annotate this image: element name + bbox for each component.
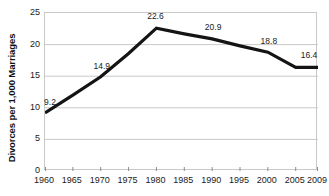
x-tick-label: 1970	[90, 175, 110, 186]
x-tick-label: 2000	[257, 175, 277, 186]
x-tick-label: 1965	[62, 175, 82, 186]
data-point-label: 20.9	[205, 22, 222, 32]
x-tick-label: 1975	[118, 175, 138, 186]
data-point-label: 16.4	[301, 50, 318, 60]
x-tick-label: 1995	[229, 175, 249, 186]
y-tick-label: 20	[10, 39, 40, 49]
y-tick-label: 0	[10, 165, 40, 175]
x-tick-label: 2005	[285, 175, 305, 186]
y-tick-label: 15	[10, 70, 40, 80]
y-tick-label: 25	[10, 7, 40, 17]
x-tick-label: 2009	[307, 175, 327, 186]
data-point-label: 9.2	[44, 97, 56, 107]
x-tick-label: 1960	[34, 175, 54, 186]
divorce-rate-line-chart: Divorces per 1,000 Marriages 0510152025 …	[0, 0, 329, 196]
y-tick-label: 5	[10, 133, 40, 143]
x-axis-tick-marks	[46, 167, 318, 171]
x-tick-label: 1980	[145, 175, 165, 186]
x-tick-label: 1985	[173, 175, 193, 186]
data-point-label: 18.8	[261, 36, 278, 46]
x-axis-tick-labels: 1960196519701975198019851990199520002005…	[44, 175, 317, 189]
data-point-label: 14.9	[93, 61, 110, 71]
y-tick-label: 10	[10, 102, 40, 112]
data-point-label: 22.6	[147, 11, 164, 21]
x-tick-label: 1990	[201, 175, 221, 186]
